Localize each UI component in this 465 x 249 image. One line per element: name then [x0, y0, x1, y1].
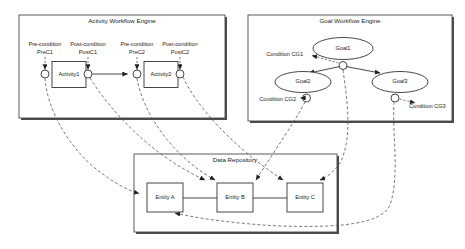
activity2-postcondition-port[interactable] [176, 70, 184, 78]
panel-activity-border [19, 15, 225, 118]
entity-node-entity-b[interactable]: Entity B [217, 183, 253, 212]
entity-a-label: Entity A [156, 194, 175, 200]
entity-c-label: Entity C [295, 194, 315, 200]
goal3-label: Goal3 [393, 78, 408, 84]
activity1-postcondition-name: PostC1 [79, 49, 97, 55]
goal2-label: Goal2 [296, 78, 311, 84]
goal1-condition-label: Condition CG1 [266, 51, 303, 57]
goal2-condition-port[interactable] [303, 94, 311, 102]
goal3-condition-label: Condition CG3 [409, 103, 446, 109]
activity2-postcondition-name: PostC2 [171, 49, 189, 55]
activity2-precondition-label: Pre-condition [121, 41, 154, 47]
activity1-postcondition-port[interactable] [84, 70, 92, 78]
diagram-canvas: Activity Workflow Engine Pre-condition P… [0, 0, 465, 249]
goal3-condition-port[interactable] [391, 94, 399, 102]
diagram-svg: Activity Workflow Engine Pre-condition P… [0, 0, 465, 249]
entity-node-entity-c[interactable]: Entity C [287, 183, 323, 212]
activity1-label: Activity1 [59, 71, 80, 77]
goal1-condition-port[interactable] [339, 62, 347, 70]
activity2-postcondition-label: Post-condition [162, 41, 197, 47]
entity-node-entity-a[interactable]: Entity A [147, 183, 183, 212]
goal1-label: Goal1 [336, 45, 351, 51]
activity1-precondition-port[interactable] [41, 70, 49, 78]
panel-goal-title: Goal Workflow Engine [319, 17, 381, 24]
activity2-precondition-port[interactable] [133, 70, 141, 78]
activity1-precondition-name: PreC1 [37, 49, 53, 55]
panel-activity-title: Activity Workflow Engine [88, 17, 156, 24]
activity2-precondition-name: PreC2 [129, 49, 145, 55]
goal2-condition-label: Condition CG2 [259, 96, 296, 102]
entity-b-label: Entity B [225, 194, 245, 200]
activity1-postcondition-label: Post-condition [70, 41, 105, 47]
activity1-precondition-label: Pre-condition [29, 41, 62, 47]
activity2-label: Activity2 [151, 71, 172, 77]
